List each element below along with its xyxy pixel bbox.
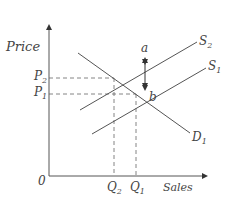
label-s2: S2: [199, 34, 212, 50]
label-p1: P1: [33, 85, 47, 101]
label-q2: Q2: [107, 180, 122, 196]
x-axis-label: Sales: [163, 181, 193, 194]
label-p2: P2: [33, 69, 47, 85]
label-q1: Q1: [130, 180, 145, 196]
y-axis-label: Price: [5, 39, 40, 54]
supply-curve-s2: [80, 42, 197, 110]
origin-label: 0: [38, 174, 46, 188]
point-b-label: b: [149, 90, 157, 104]
demand-curve-d1: [78, 53, 190, 133]
shift-arrow-head-up: [142, 57, 148, 63]
point-a-label: a: [141, 41, 148, 55]
supply-demand-diagram: Price Sales 0 S2 S1 D1 a b P2 P1 Q2 Q1: [0, 0, 227, 207]
label-d1: D1: [191, 130, 207, 146]
label-s1: S1: [208, 59, 221, 75]
shift-arrow-head-down: [142, 85, 148, 91]
